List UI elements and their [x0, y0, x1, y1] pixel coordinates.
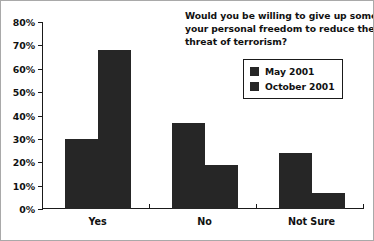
y-axis-tick-label: 0% [19, 204, 35, 215]
y-axis-tick-label: 50% [13, 87, 35, 98]
y-axis-tick-label: 20% [13, 157, 35, 168]
y-axis-tick-label: 10% [13, 180, 35, 191]
y-axis-tick [38, 162, 43, 163]
x-axis-separator-tick [363, 204, 364, 209]
x-axis-label-not-sure: Not Sure [288, 216, 335, 227]
y-axis-tick-label: 60% [13, 63, 35, 74]
x-axis-label-yes: Yes [88, 216, 106, 227]
y-axis-tick [38, 186, 43, 187]
y-axis-tick [38, 22, 43, 23]
bar-yes-may-2001 [65, 139, 98, 209]
y-axis-tick [38, 139, 43, 140]
y-axis-tick-label: 30% [13, 133, 35, 144]
bar-chart: Would you be willing to give up some of … [0, 0, 374, 241]
question-line-1: Would you be willing to give up some of [185, 9, 374, 22]
plot-area: 0%10%20%30%40%50%60%70%80% YesNoNot Sure [42, 22, 363, 209]
bar-no-october-2001 [205, 165, 238, 209]
y-axis-tick [38, 116, 43, 117]
bar-no-may-2001 [172, 123, 205, 209]
x-axis-separator-tick [149, 204, 150, 209]
y-axis-tick-label: 70% [13, 40, 35, 51]
y-axis-tick [38, 209, 43, 210]
y-axis-tick-label: 80% [13, 17, 35, 28]
y-axis-tick-label: 40% [13, 110, 35, 121]
y-axis-tick [38, 92, 43, 93]
bar-yes-october-2001 [98, 50, 131, 209]
y-axis-tick [38, 45, 43, 46]
x-axis-separator-tick [256, 204, 257, 209]
bar-not-sure-may-2001 [279, 153, 312, 209]
bar-not-sure-october-2001 [312, 193, 345, 209]
y-axis-tick [38, 69, 43, 70]
x-axis-label-no: No [197, 216, 212, 227]
